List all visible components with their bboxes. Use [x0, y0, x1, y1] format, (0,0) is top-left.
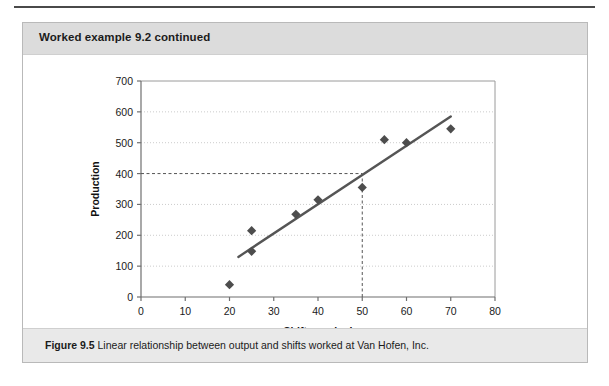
plot-background [34, 56, 578, 328]
figure-caption-text: Linear relationship between output and s… [98, 339, 429, 351]
figure-container: Worked example 9.2 continued 01002003004… [22, 22, 588, 363]
figure-page: Worked example 9.2 continued 01002003004… [0, 0, 609, 386]
page-top-rule [14, 6, 595, 8]
worked-example-title: Worked example 9.2 continued [39, 31, 210, 43]
figure-caption-label: Figure 9.5 [45, 339, 95, 351]
figure-caption: Figure 9.5 Linear relationship between o… [45, 339, 429, 351]
figure-caption-band: Figure 9.5 Linear relationship between o… [23, 328, 587, 362]
worked-example-header-band: Worked example 9.2 continued [23, 23, 587, 55]
